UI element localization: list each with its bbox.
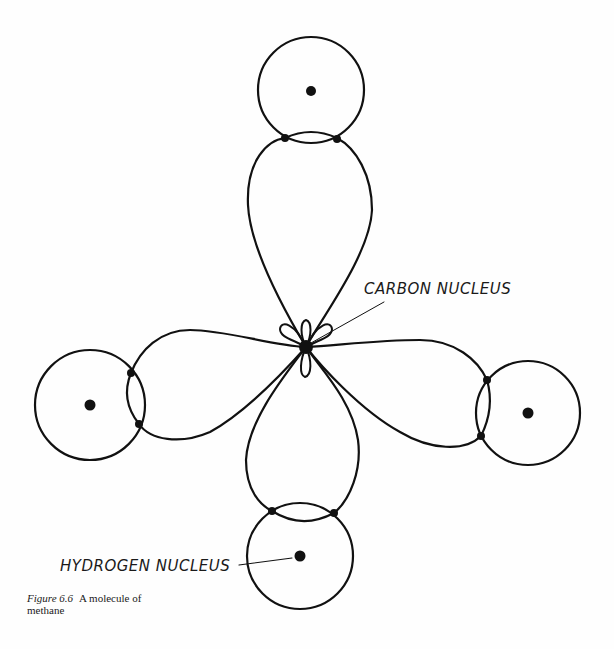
carbon-nucleus-label: CARBON NUCLEUS [364, 280, 511, 298]
methane-diagram: CARBON NUCLEUS HYDROGEN NUCLEUS [0, 0, 614, 649]
intersection-dot [127, 369, 135, 377]
bond-lobe-right [306, 340, 487, 447]
overlap-region-bottom [272, 511, 334, 521]
bond-lobe-left [131, 330, 306, 439]
hydrogen-nucleus-left [85, 400, 96, 411]
hydrogen-nucleus-bottom [295, 551, 306, 562]
carbon-nucleus [299, 340, 313, 354]
intersection-dot [135, 420, 143, 428]
bond-lobe-top [248, 138, 372, 347]
intersection-dot [483, 376, 491, 384]
hydrogen-nucleus-right [523, 408, 534, 419]
intersection-dot [281, 134, 289, 142]
figure-number: Figure 6.6 [27, 592, 73, 604]
overlap-region-left [127, 373, 139, 424]
intersection-dot [330, 509, 338, 517]
hydrogen-nucleus-label: HYDROGEN NUCLEUS [60, 557, 230, 575]
bond-lobe-bottom [246, 347, 359, 513]
intersection-dot [268, 507, 276, 515]
intersection-dot [477, 432, 485, 440]
figure-caption: Figure 6.6A molecule of methane [27, 592, 167, 616]
overlap-region-top [285, 132, 337, 138]
intersection-dot [333, 135, 341, 143]
hydrogen-nucleus-top [306, 86, 316, 96]
